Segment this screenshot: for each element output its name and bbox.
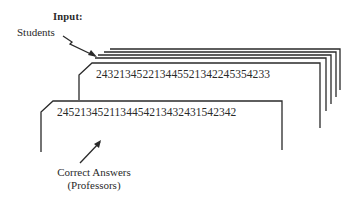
- answer-card-text: 2452134521134454213432431542342: [57, 107, 236, 119]
- students-label: Students: [17, 27, 55, 38]
- correct-answers-label: Correct Answers: [55, 167, 133, 178]
- professors-label: (Professors): [55, 180, 133, 191]
- students-arrowhead-icon: [88, 50, 97, 57]
- student-card-back-2: [95, 58, 326, 111]
- input-title: Input:: [53, 12, 83, 23]
- student-card-text: 243213452213445521342245354233: [96, 69, 270, 81]
